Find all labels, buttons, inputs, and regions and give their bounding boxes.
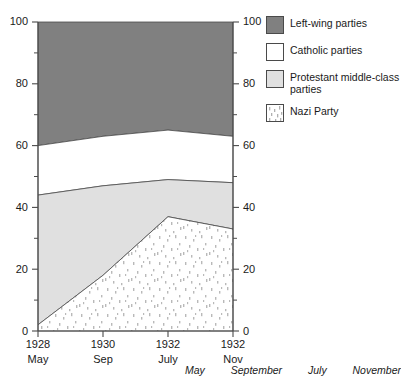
stipple-pattern-icon (267, 105, 284, 122)
y-axis-right-tick-80: 80 (243, 78, 255, 89)
x-axis-year-1932-nov: 1932 (207, 338, 259, 350)
legend-item-left-wing-parties[interactable]: Left-wing parties (266, 16, 401, 34)
y-axis-left-minor-ticks (34, 53, 38, 300)
x-axis-ticks (38, 331, 233, 337)
legend-label-protestant-middle-class-parties: Protestant middle-class parties (290, 70, 401, 95)
x-axis-month-may: May (12, 353, 64, 365)
y-axis-right-tick-40: 40 (243, 202, 255, 213)
legend-label-left-wing-parties: Left-wing parties (290, 16, 367, 30)
legend-item-catholic-parties[interactable]: Catholic parties (266, 43, 401, 61)
dark-gray-swatch-icon (266, 16, 284, 34)
y-axis-left-tick-0: 0 (0, 326, 28, 337)
y-axis-left-tick-20: 20 (0, 264, 28, 275)
chart-figure: 100 80 60 40 20 0 100 80 60 40 20 0 1928… (0, 0, 401, 381)
y-axis-left-tick-60: 60 (0, 140, 28, 151)
x-axis-year-1932-july: 1932 (142, 338, 194, 350)
y-axis-left-tick-100: 100 (0, 16, 28, 27)
legend-label-catholic-parties: Catholic parties (290, 43, 362, 57)
stipple-swatch-icon (266, 104, 284, 122)
footer-month-november: November (353, 364, 401, 376)
y-axis-right-tick-60: 60 (243, 140, 255, 151)
y-axis-left-tick-80: 80 (0, 78, 28, 89)
y-axis-right-minor-ticks (233, 53, 237, 300)
x-axis-month-sep: Sep (77, 353, 129, 365)
y-axis-left-tick-40: 40 (0, 202, 28, 213)
y-axis-right-tick-20: 20 (243, 264, 255, 275)
legend-label-nazi-party: Nazi Party (290, 104, 338, 118)
y-axis-right-tick-0: 0 (243, 326, 249, 337)
white-swatch-icon (266, 43, 284, 61)
chart-legend: Left-wing parties Catholic parties Prote… (266, 16, 401, 131)
footer-month-row: May September July November (185, 364, 401, 376)
footer-month-may: May (185, 364, 205, 376)
x-axis-year-1930: 1930 (77, 338, 129, 350)
y-axis-right-tick-100: 100 (243, 16, 261, 27)
series-area-left-wing (38, 22, 233, 146)
legend-item-protestant-middle-class-parties[interactable]: Protestant middle-class parties (266, 70, 401, 95)
footer-month-july: July (308, 364, 327, 376)
footer-month-september: September (231, 364, 282, 376)
stacked-area-chart-svg (0, 0, 260, 381)
light-gray-swatch-icon (266, 70, 284, 88)
plot-area: 100 80 60 40 20 0 100 80 60 40 20 0 1928… (0, 0, 260, 381)
legend-item-nazi-party[interactable]: Nazi Party (266, 104, 401, 122)
x-axis-year-1928: 1928 (12, 338, 64, 350)
